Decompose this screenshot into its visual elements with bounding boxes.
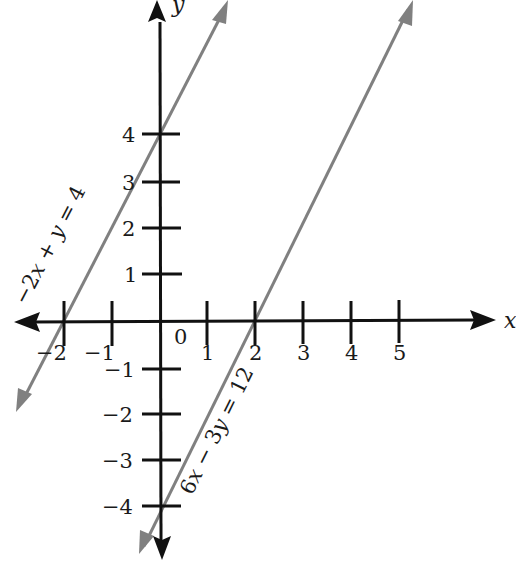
y-tick-label: −2	[102, 403, 133, 427]
line-6x-minus-3y-eq-12	[139, 0, 413, 554]
x-tick-label: 4	[345, 341, 358, 365]
y-axis-name: y	[171, 0, 185, 17]
arrow-up-icon	[148, 0, 166, 22]
origin-label: 0	[174, 325, 187, 349]
graph-canvas: x y −2 −1 0 1 2 3 4 5 4 3 2 1 −1 −2 −3 −…	[0, 0, 516, 562]
equation-label-line2: 6x − 3y = 12	[175, 363, 259, 498]
arrowhead-icon	[212, 0, 228, 24]
y-tick-label: 2	[122, 217, 135, 241]
x-tick-label: −2	[36, 341, 67, 365]
x-tick-label: 1	[201, 341, 214, 365]
x-tick-label: 5	[393, 341, 406, 365]
x-axis	[14, 300, 496, 346]
y-tick-label: 3	[122, 171, 135, 195]
eq1-part: = 4	[49, 182, 91, 232]
equation-label-line1: −2x + y = 4	[9, 182, 90, 308]
coordinate-plane-figure: x y −2 −1 0 1 2 3 4 5 4 3 2 1 −1 −2 −3 −…	[0, 0, 516, 562]
arrowhead-icon	[398, 0, 413, 26]
y-tick-label: 4	[122, 123, 135, 147]
x-tick-label: 3	[297, 341, 310, 365]
y-tick-label: 1	[124, 263, 137, 287]
y-tick-label: −4	[102, 495, 133, 519]
y-axis	[142, 0, 182, 560]
x-tick-label: 2	[249, 341, 262, 365]
y-tick-label: −3	[102, 449, 133, 473]
x-axis-name: x	[504, 308, 516, 333]
arrowhead-icon	[16, 388, 32, 412]
y-tick-label: −1	[104, 358, 135, 382]
